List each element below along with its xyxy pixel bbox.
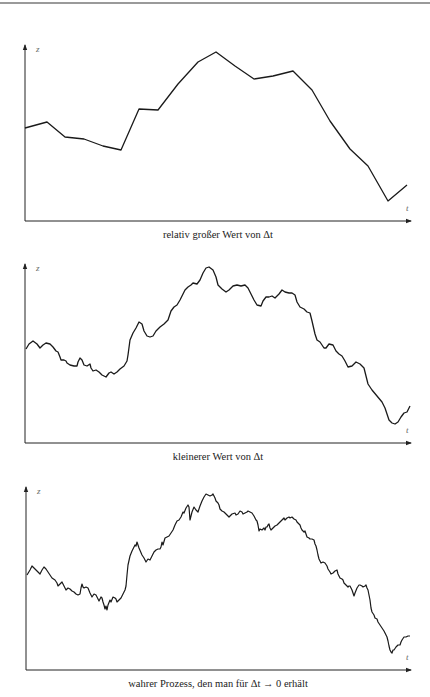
- brownian-motion-figure: z t relativ großer Wert von Δt z t klein…: [0, 0, 430, 697]
- panel-3: z t wahrer Prozess, den man für Δt → 0 e…: [26, 486, 411, 689]
- x-axis-label: t: [406, 425, 409, 435]
- panel-caption: kleinerer Wert von Δt: [173, 451, 264, 462]
- process-line: [27, 494, 410, 653]
- figure-stage: z t relativ großer Wert von Δt z t klein…: [0, 0, 430, 697]
- process-line: [25, 52, 407, 201]
- y-axis-label: z: [35, 263, 40, 273]
- panel-2: z t kleinerer Wert von Δt: [25, 263, 411, 462]
- y-axis-label: z: [35, 44, 40, 54]
- panel-caption: wahrer Prozess, den man für Δt → 0 erhäl…: [128, 678, 308, 689]
- panel-caption: relativ großer Wert von Δt: [163, 229, 273, 240]
- x-axis-label: t: [406, 652, 409, 662]
- process-line: [26, 267, 410, 424]
- panel-1: z t relativ großer Wert von Δt: [25, 44, 411, 240]
- y-axis-label: z: [36, 486, 41, 496]
- x-axis-label: t: [406, 203, 409, 213]
